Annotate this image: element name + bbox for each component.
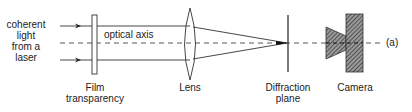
lens-label: Lens	[170, 82, 210, 93]
label-line: Film	[55, 82, 135, 93]
source-label: coherent light from a laser	[2, 19, 50, 63]
incoming-ray-top	[60, 24, 190, 29]
optical-axis-label: optical axis	[104, 29, 153, 40]
optical-diffraction-diagram: coherent light from a laser optical axis…	[0, 0, 412, 112]
source-label-line: from a	[2, 41, 50, 52]
camera-label: Camera	[325, 82, 385, 93]
film-transparency-label: Film transparency	[55, 82, 135, 104]
source-label-line: light	[2, 30, 50, 41]
camera-icon	[326, 14, 363, 72]
lens-icon	[185, 8, 196, 80]
label-line: plane	[258, 93, 318, 104]
panel-tag: (a)	[386, 37, 398, 48]
label-line: transparency	[55, 93, 135, 104]
source-label-line: laser	[2, 52, 50, 63]
film-transparency	[92, 15, 97, 74]
diffraction-plane-label: Diffraction plane	[258, 82, 318, 104]
label-line: Camera	[325, 82, 385, 93]
label-line: Diffraction	[258, 82, 318, 93]
source-label-line: coherent	[2, 19, 50, 30]
label-line: Lens	[170, 82, 210, 93]
incoming-ray-bottom	[60, 58, 190, 63]
